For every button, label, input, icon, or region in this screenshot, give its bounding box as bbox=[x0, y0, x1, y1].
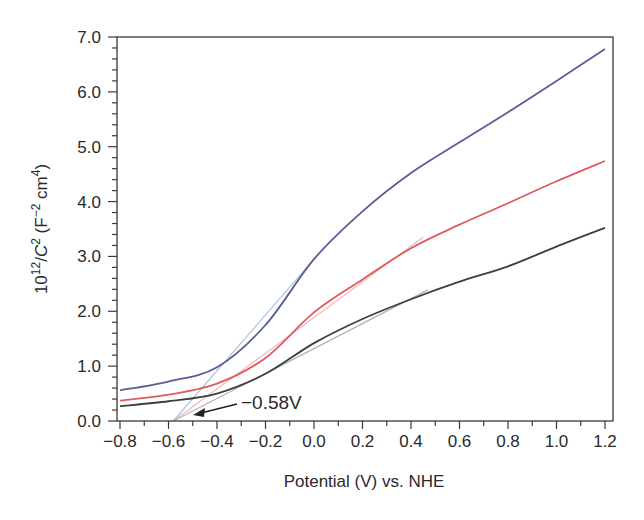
y-axis: 0.01.02.03.04.05.06.07.0 bbox=[77, 28, 117, 431]
chart: −0.8−0.6−0.4−0.20.00.20.40.60.81.01.2 0.… bbox=[0, 0, 644, 520]
blue-curve bbox=[120, 49, 605, 390]
x-tick-label: 1.0 bbox=[545, 432, 569, 451]
y-tick-label: 6.0 bbox=[77, 83, 101, 102]
plot-frame bbox=[117, 37, 613, 421]
data-series bbox=[120, 49, 605, 406]
y-tick-label: 0.0 bbox=[77, 412, 101, 431]
y-tick-label: 7.0 bbox=[77, 28, 101, 47]
x-tick-label: −0.6 bbox=[152, 432, 186, 451]
dark-curve bbox=[120, 228, 605, 406]
x-tick-label: −0.8 bbox=[103, 432, 137, 451]
y-tick-label: 2.0 bbox=[77, 302, 101, 321]
x-tick-label: 0.6 bbox=[448, 432, 472, 451]
x-tick-label: 0.2 bbox=[351, 432, 375, 451]
x-tick-label: 0.0 bbox=[302, 432, 326, 451]
y-tick-label: 3.0 bbox=[77, 247, 101, 266]
y-axis-label: 1012/C2 (F−2 cm4) bbox=[29, 164, 51, 294]
x-tick-label: 0.4 bbox=[399, 432, 423, 451]
x-tick-label: −0.4 bbox=[200, 432, 234, 451]
annotation-label: −0.58V bbox=[241, 392, 302, 413]
y-tick-label: 4.0 bbox=[77, 193, 101, 212]
x-tick-label: −0.2 bbox=[249, 432, 283, 451]
y-tick-label: 1.0 bbox=[77, 357, 101, 376]
x-tick-label: 1.2 bbox=[593, 432, 617, 451]
y-tick-label: 5.0 bbox=[77, 138, 101, 157]
x-axis: −0.8−0.6−0.4−0.20.00.20.40.60.81.01.2 bbox=[103, 421, 617, 451]
red-curve bbox=[120, 161, 605, 401]
x-axis-label: Potential (V) vs. NHE bbox=[284, 472, 445, 491]
x-tick-label: 0.8 bbox=[496, 432, 520, 451]
